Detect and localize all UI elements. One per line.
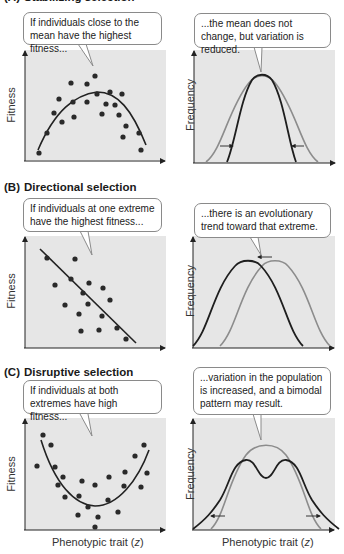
panel-b-fitness-ylabel: Fitness (5, 268, 17, 314)
figure-graphics (0, 0, 344, 554)
panel-a-fitness-ylabel: Fitness (5, 82, 17, 128)
panel-b-label: (B) (4, 181, 20, 193)
panel-c-frequency-callout: ...variation in the population is increa… (193, 367, 331, 415)
panel-b-frequency-plot (192, 236, 335, 348)
panel-c-fitness-ylabel: Fitness (5, 451, 17, 497)
panel-b-title-text: Directional selection (24, 181, 136, 193)
panel-b-fitness-plot (24, 236, 166, 348)
panel-b-frequency-ylabel: Frequency (184, 256, 196, 326)
panel-c-frequency-plot (192, 418, 339, 530)
panel-a-title-text: Stabilizing selection (24, 0, 135, 3)
panel-b-title: (B)Directional selection (4, 181, 136, 193)
panel-b-frequency-callout: ...there is an evolutionary trend toward… (194, 203, 331, 238)
panel-b-fitness-callout: If individuals at one extreme have the h… (23, 198, 162, 232)
panel-a-title: (A)Stabilizing selection (4, 0, 135, 3)
panel-a-label: (A) (4, 0, 20, 3)
panel-c-fitness-callout: If individuals at both extremes have hig… (23, 380, 162, 414)
panel-c-frequency-ylabel: Frequency (184, 439, 196, 509)
x-axis-label-left: Phenotypic trait (z) (52, 536, 144, 548)
panel-c-label: (C) (4, 366, 20, 378)
panel-a-frequency-plot (193, 50, 335, 163)
panel-a-fitness-callout: If individuals close to the mean have th… (23, 12, 162, 45)
panel-a-frequency-ylabel: Frequency (184, 70, 196, 140)
panel-c-title-text: Disruptive selection (24, 366, 133, 378)
panel-a-frequency-callout: ...the mean does not change, but variati… (194, 13, 331, 48)
x-axis-label-right: Phenotypic trait (z) (222, 536, 314, 548)
panel-c-fitness-plot (24, 418, 166, 530)
panel-c-title: (C)Disruptive selection (4, 366, 133, 378)
panel-a-fitness-plot (24, 50, 166, 161)
